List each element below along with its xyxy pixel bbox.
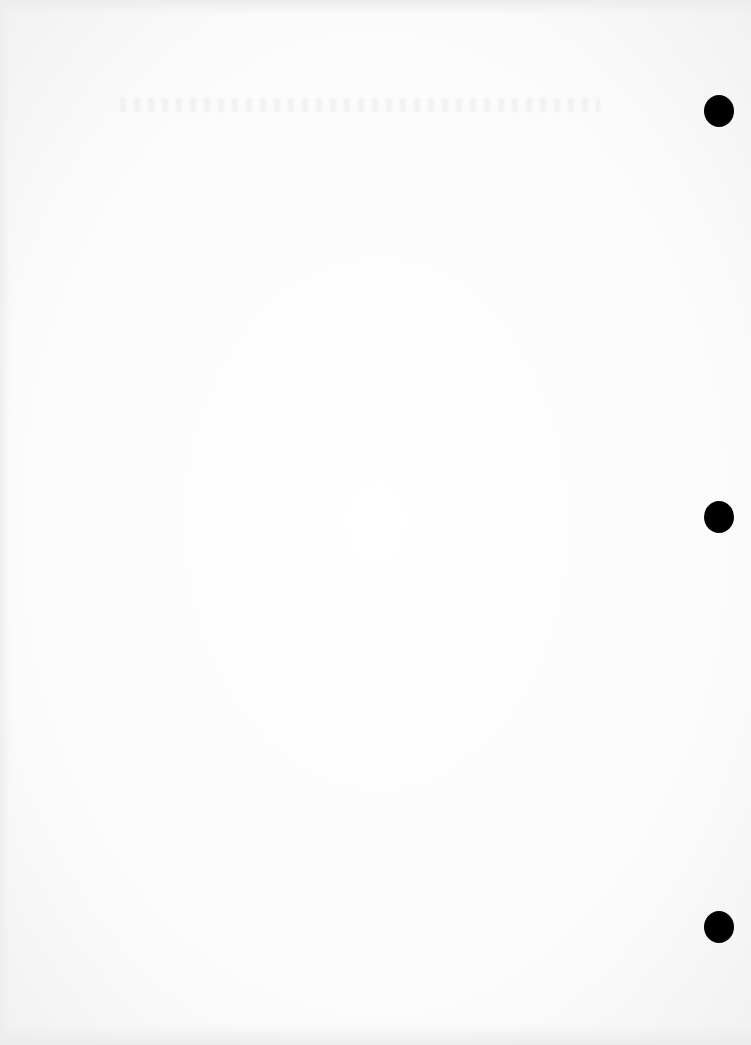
bleed-through-text: [120, 98, 600, 112]
punch-hole-bottom: [704, 911, 734, 943]
scan-shadow-top: [0, 0, 751, 14]
scan-shadow-bottom: [0, 1025, 751, 1045]
scanned-page: [0, 0, 751, 1045]
punch-hole-middle: [704, 501, 734, 533]
scan-shadow-left: [0, 0, 10, 1045]
punch-hole-top: [704, 95, 734, 127]
